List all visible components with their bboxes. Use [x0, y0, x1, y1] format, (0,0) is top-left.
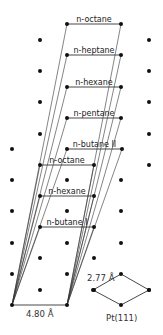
- lattice-dot: [10, 178, 14, 182]
- lattice-dot: [65, 147, 69, 151]
- lattice-dot: [65, 116, 69, 120]
- lattice-dot: [147, 288, 151, 292]
- chain-label: n-hexane: [75, 78, 113, 87]
- lattice-dot: [38, 100, 42, 104]
- lattice-dot: [10, 303, 14, 307]
- lattice-dot: [147, 132, 151, 136]
- lattice-dot: [92, 256, 96, 260]
- lattice-dots: [10, 22, 151, 307]
- lattice-dot: [119, 116, 123, 120]
- lattice-dot: [147, 163, 151, 167]
- lattice-dot: [92, 194, 96, 198]
- connector-left: [12, 196, 40, 305]
- lattice-dot: [119, 241, 123, 245]
- lattice-dot: [10, 147, 14, 151]
- lattice-dot: [92, 225, 96, 229]
- lattice-dot: [38, 163, 42, 167]
- lattice-dot: [10, 241, 14, 245]
- connector-right: [67, 196, 94, 305]
- lattice-dot: [65, 241, 69, 245]
- base-vector-label: 4.80 Å: [26, 308, 54, 319]
- adsorption-diagram: n-octanen-heptanen-hexanen-pentanen-buta…: [0, 0, 163, 335]
- lattice-dot: [65, 272, 69, 276]
- chain-label: n-pentane: [73, 109, 114, 118]
- connector-left: [12, 165, 40, 305]
- connector-right: [67, 227, 94, 305]
- chain-label: n-hexane: [48, 187, 86, 196]
- chain-label: n-heptane: [73, 46, 114, 55]
- substrate-label: Pt(111): [106, 313, 137, 323]
- lattice-dot: [119, 209, 123, 213]
- lattice-dot: [119, 272, 123, 276]
- lattice-dot: [65, 22, 69, 26]
- lattice-dot: [119, 303, 123, 307]
- lattice-dot: [38, 132, 42, 136]
- lattice-dot: [119, 53, 123, 57]
- chain-connector-lines: [12, 24, 122, 305]
- chain-label: n-octane: [49, 156, 85, 165]
- connector-left: [12, 227, 40, 305]
- chain-label: n-octane: [76, 15, 112, 24]
- lattice-dot: [65, 209, 69, 213]
- connector-left: [12, 118, 67, 305]
- lattice-dot: [65, 303, 69, 307]
- lattice-dot: [38, 194, 42, 198]
- lattice-dot: [10, 272, 14, 276]
- lattice-dot: [38, 256, 42, 260]
- lattice-dot: [10, 209, 14, 213]
- lattice-dot: [147, 100, 151, 104]
- lattice-dot: [119, 22, 123, 26]
- lattice-dot: [147, 69, 151, 73]
- lattice-dot: [119, 85, 123, 89]
- lattice-dot: [38, 225, 42, 229]
- lattice-dot: [65, 53, 69, 57]
- connector-left: [12, 55, 67, 305]
- lattice-dot: [147, 38, 151, 42]
- chain-label: n-butane II: [73, 140, 116, 149]
- lattice-dot: [119, 178, 123, 182]
- nn-distance-label: 2.77 Å: [87, 272, 115, 283]
- connector-right: [67, 55, 121, 305]
- chain-label: n-butane I: [46, 218, 87, 227]
- lattice-dot: [65, 85, 69, 89]
- lattice-dot: [65, 178, 69, 182]
- lattice-dot: [38, 69, 42, 73]
- lattice-dot: [92, 163, 96, 167]
- lattice-dot: [92, 288, 96, 292]
- lattice-dot: [38, 288, 42, 292]
- lattice-dot: [38, 38, 42, 42]
- lattice-dot: [120, 147, 124, 151]
